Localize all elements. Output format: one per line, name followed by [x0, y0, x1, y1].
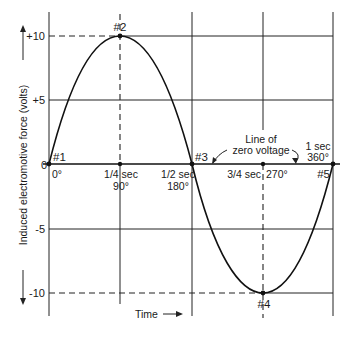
arrow-down-icon — [20, 298, 26, 305]
xtick-threequarter-time: 3/4 sec — [227, 168, 261, 180]
xtick-quarter-time: 1/4 sec — [104, 168, 138, 180]
point-label-5: #5 — [317, 168, 330, 180]
svg-text:zero voltage: zero voltage — [232, 144, 289, 156]
x-axis-label: Time — [135, 308, 158, 320]
point-label-1: #1 — [53, 151, 66, 163]
ytick-0: 0 — [41, 159, 47, 171]
ytick-neg10: -10 — [29, 287, 45, 299]
ytick-neg5: -5 — [35, 223, 45, 235]
xtick-quarter-deg: 90° — [113, 180, 129, 192]
xtick-half-deg: 180° — [167, 180, 189, 192]
xtick-0-deg: 0° — [52, 168, 62, 180]
ytick-10: +10 — [26, 30, 45, 42]
xtick-half-time: 1/2 sec — [161, 168, 195, 180]
point-label-2: #2 — [114, 21, 127, 33]
xtick-one-deg: 360° — [307, 151, 329, 163]
xtick-threequarter-deg: 270° — [266, 168, 288, 180]
x-axis-label-group: Time — [135, 308, 183, 320]
point-label-3: #3 — [195, 151, 208, 163]
sine-wave-chart: +10 +5 0 -5 -10 Induced electromotive fo… — [0, 0, 349, 339]
point-label-4: #4 — [258, 298, 271, 310]
ytick-5: +5 — [32, 94, 45, 106]
arrow-up-icon — [20, 25, 26, 32]
peak-dashed-lines — [49, 14, 263, 318]
zero-voltage-annotation: Line of zero voltage — [212, 133, 298, 164]
y-axis-label: Induced electromotive force (volts) — [17, 85, 29, 245]
arrow-right-icon — [176, 311, 183, 317]
y-axis-label-group: Induced electromotive force (volts) — [17, 25, 29, 305]
